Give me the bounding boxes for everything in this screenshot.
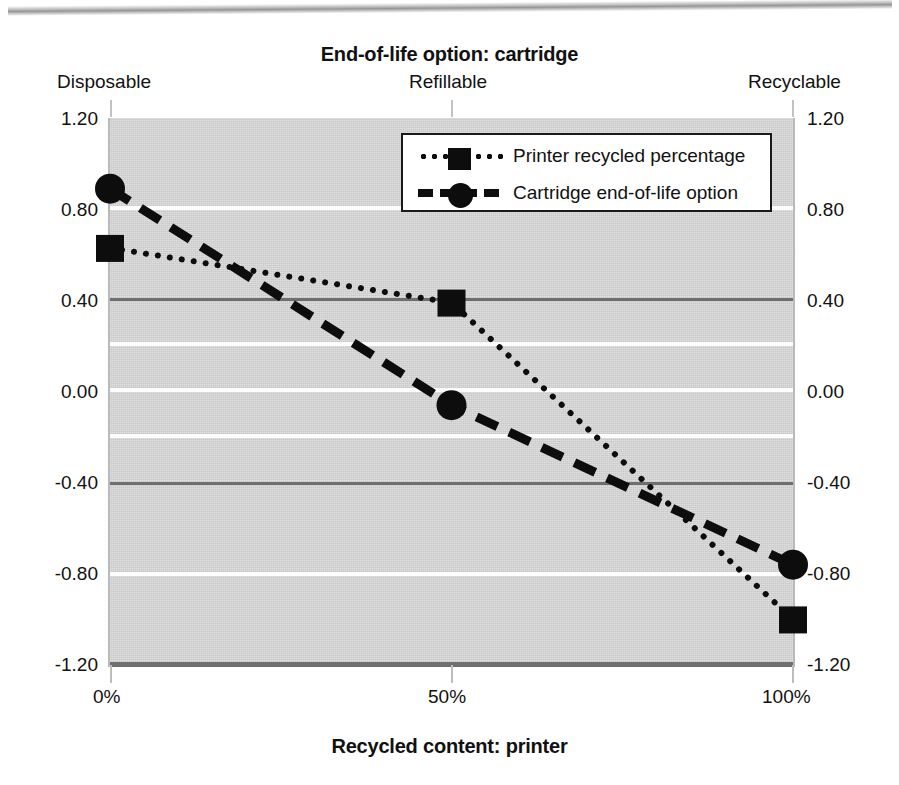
- x-axis-tick-50: [451, 665, 453, 683]
- x-axis-top-tick-100: [792, 100, 794, 117]
- square-marker-icon: [448, 148, 471, 170]
- top-category-label-recyclable: Recyclable: [748, 71, 841, 93]
- gridline-minus-0.40: [110, 482, 793, 485]
- y-axis-left-label-minus-0.80: -0.80: [55, 563, 98, 585]
- gridline-0.40: [110, 298, 793, 301]
- gridline-minus-0.20: [110, 434, 793, 438]
- y-axis-right-spine: [793, 118, 795, 667]
- y-axis-right-label-0.40: 0.40: [807, 290, 844, 312]
- circle-marker-icon: [448, 183, 473, 208]
- legend: Printer recycled percentage Cartridge en…: [401, 133, 772, 212]
- y-axis-right-label-minus-0.40: -0.40: [807, 472, 850, 494]
- y-axis-left-label-minus-1.20: -1.20: [55, 654, 98, 676]
- legend-item-printer-recycled-percentage[interactable]: Printer recycled percentage: [403, 137, 774, 175]
- x-axis-tick-0: [110, 665, 112, 683]
- legend-item-cartridge-end-of-life-option[interactable]: Cartridge end-of-life option: [403, 174, 774, 212]
- top-category-label-refillable: Refillable: [409, 71, 487, 93]
- gridline-0.00: [110, 388, 793, 392]
- y-axis-left-spine: [108, 118, 110, 667]
- legend-label-0: Printer recycled percentage: [513, 145, 745, 167]
- y-axis-left-label-1.20: 1.20: [61, 108, 98, 130]
- y-axis-right-label-minus-1.20: -1.20: [807, 654, 850, 676]
- x-axis-tick-100: [792, 665, 794, 683]
- y-axis-left-label-0.40: 0.40: [61, 290, 98, 312]
- x-axis-top-tick-50: [451, 100, 453, 117]
- x-axis-top-tick-0: [110, 100, 112, 117]
- x-axis-label-0: 0%: [93, 686, 120, 708]
- x-axis-label-50: 50%: [428, 686, 466, 708]
- legend-swatch-dashed-circle: [415, 178, 507, 208]
- legend-swatch-dotted-square: [415, 141, 507, 171]
- x-axis-title: Recycled content: printer: [0, 735, 899, 758]
- gridline-minus-0.80: [110, 572, 793, 576]
- legend-label-1: Cartridge end-of-life option: [513, 182, 738, 204]
- x-axis-label-100: 100%: [762, 686, 811, 708]
- y-axis-left-label-0.00: 0.00: [61, 381, 98, 403]
- y-axis-right-label-1.20: 1.20: [807, 108, 844, 130]
- top-category-label-disposable: Disposable: [57, 71, 151, 93]
- y-axis-left-label-0.80: 0.80: [61, 199, 98, 221]
- y-axis-left-label-minus-0.40: -0.40: [55, 472, 98, 494]
- scan-artifact-rule: [8, 0, 892, 16]
- y-axis-right-label-minus-0.80: -0.80: [807, 563, 850, 585]
- gridline-0.20: [110, 342, 793, 346]
- y-axis-right-label-0.80: 0.80: [807, 199, 844, 221]
- chart-title: End-of-life option: cartridge: [0, 43, 899, 66]
- y-axis-right-label-0.00: 0.00: [807, 381, 844, 403]
